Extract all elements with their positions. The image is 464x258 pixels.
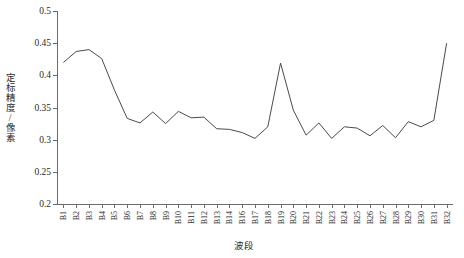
data-series-line: [57, 11, 453, 204]
x-tick-mark: [166, 204, 167, 208]
x-tick-label: B24: [340, 211, 349, 224]
plot-area: 0.20.250.30.350.40.450.5 B1B2B3B4B5B6B7B…: [57, 11, 453, 204]
x-tick-label: B4: [97, 211, 106, 220]
y-tick-label: 0.2: [39, 199, 51, 209]
x-tick-mark: [178, 204, 179, 208]
y-axis-title: 定标精度/像素: [1, 58, 15, 158]
x-tick-label: B30: [417, 211, 426, 224]
y-tick-label: 0.3: [39, 135, 51, 145]
x-tick-label: B16: [238, 211, 247, 224]
x-tick-mark: [153, 204, 154, 208]
x-tick-mark: [268, 204, 269, 208]
x-tick-mark: [421, 204, 422, 208]
x-tick-mark: [332, 204, 333, 208]
x-tick-mark: [76, 204, 77, 208]
x-tick-label: B22: [314, 211, 323, 224]
y-tick-label: 0.45: [34, 38, 51, 48]
x-tick-label: B14: [225, 211, 234, 224]
x-tick-mark: [102, 204, 103, 208]
y-tick-label: 0.35: [34, 103, 51, 113]
x-tick-mark: [370, 204, 371, 208]
x-tick-label: B20: [289, 211, 298, 224]
y-tick-label: 0.25: [34, 167, 51, 177]
x-tick-label: B5: [110, 211, 119, 220]
x-tick-mark: [293, 204, 294, 208]
x-tick-label: B9: [161, 211, 170, 220]
x-tick-mark: [357, 204, 358, 208]
x-tick-label: B8: [148, 211, 157, 220]
x-tick-label: B23: [327, 211, 336, 224]
x-tick-mark: [89, 204, 90, 208]
x-tick-mark: [229, 204, 230, 208]
y-tick-label: 0.4: [39, 70, 51, 80]
x-tick-mark: [114, 204, 115, 208]
x-tick-label: B6: [123, 211, 132, 220]
x-tick-label: B1: [59, 211, 68, 220]
x-tick-label: B2: [72, 211, 81, 220]
x-tick-label: B32: [442, 211, 451, 224]
x-tick-mark: [242, 204, 243, 208]
x-tick-mark: [281, 204, 282, 208]
x-tick-mark: [204, 204, 205, 208]
x-tick-mark: [63, 204, 64, 208]
x-tick-mark: [396, 204, 397, 208]
x-tick-mark: [140, 204, 141, 208]
x-tick-label: B31: [429, 211, 438, 224]
x-tick-label: B19: [276, 211, 285, 224]
x-tick-label: B7: [136, 211, 145, 220]
y-tick-mark: [53, 204, 57, 205]
x-tick-label: B11: [187, 211, 196, 224]
x-tick-label: B26: [365, 211, 374, 224]
x-tick-mark: [319, 204, 320, 208]
x-tick-label: B18: [263, 211, 272, 224]
x-tick-label: B29: [404, 211, 413, 224]
x-tick-label: B21: [302, 211, 311, 224]
y-tick-label: 0.5: [39, 6, 51, 16]
x-tick-label: B25: [353, 211, 362, 224]
x-tick-label: B3: [84, 211, 93, 220]
x-tick-mark: [344, 204, 345, 208]
x-tick-label: B28: [391, 211, 400, 224]
x-tick-mark: [447, 204, 448, 208]
x-tick-mark: [127, 204, 128, 208]
x-tick-mark: [255, 204, 256, 208]
x-tick-mark: [434, 204, 435, 208]
x-tick-mark: [191, 204, 192, 208]
x-tick-mark: [408, 204, 409, 208]
x-tick-label: B13: [212, 211, 221, 224]
x-tick-mark: [383, 204, 384, 208]
x-tick-label: B17: [251, 211, 260, 224]
x-tick-label: B27: [378, 211, 387, 224]
x-tick-label: B10: [174, 211, 183, 224]
x-tick-mark: [306, 204, 307, 208]
x-tick-mark: [217, 204, 218, 208]
x-axis-title: 波段: [0, 238, 464, 252]
chart-figure: 定标精度/像素 0.20.250.30.350.40.450.5 B1B2B3B…: [0, 0, 464, 258]
x-tick-label: B12: [199, 211, 208, 224]
